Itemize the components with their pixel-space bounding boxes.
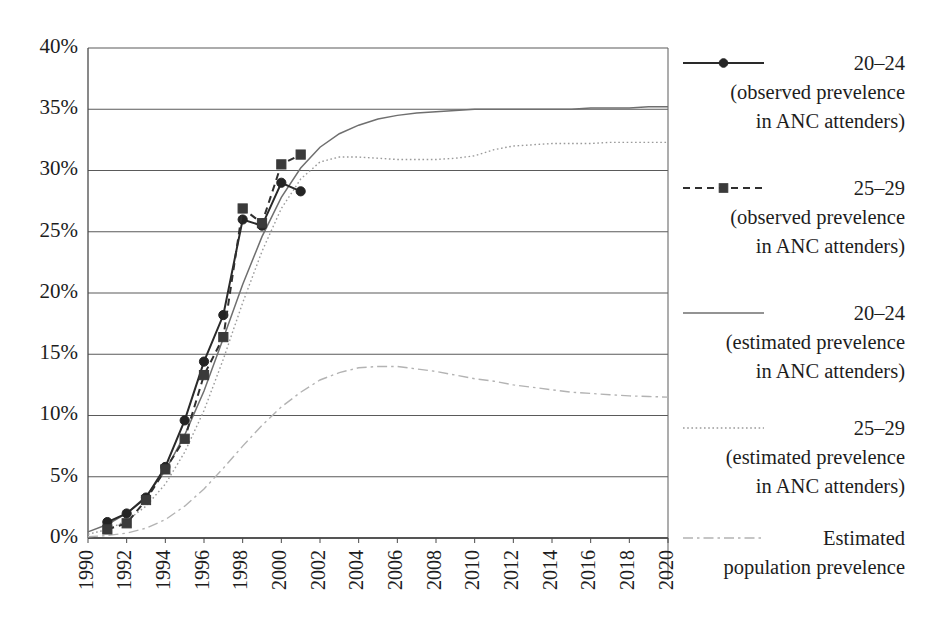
x-tick-label: 2012 <box>500 550 522 590</box>
data-point-marker <box>122 509 131 518</box>
legend-label-line2-0: (observed prevelence <box>730 81 905 104</box>
data-point-marker <box>219 333 228 342</box>
chart-figure: 0%5%10%15%20%25%30%35%40% 19901992199419… <box>0 0 925 631</box>
series-line-0 <box>107 183 300 522</box>
data-point-marker <box>122 519 131 528</box>
x-tick-label: 1994 <box>152 550 174 590</box>
x-tick-label: 2008 <box>423 550 445 590</box>
legend-label-line2-4: population prevelence <box>723 556 905 579</box>
data-point-marker <box>180 416 189 425</box>
data-point-marker <box>180 434 189 443</box>
x-tick-label: 2006 <box>384 550 406 590</box>
x-tick-label: 1996 <box>191 550 213 590</box>
legend-label-main-2: 20–24 <box>854 302 905 324</box>
y-tick-label: 5% <box>50 463 78 487</box>
data-point-marker <box>238 204 247 213</box>
data-series-layer <box>88 107 668 537</box>
legend-label-main-4: Estimated <box>823 527 905 549</box>
y-tick-label: 15% <box>40 340 79 364</box>
x-tick-label: 1990 <box>75 550 97 590</box>
legend-circle-marker <box>719 59 728 68</box>
data-point-marker <box>199 357 208 366</box>
x-tick-label: 2000 <box>268 550 290 590</box>
legend-label-main-0: 20–24 <box>854 52 905 74</box>
x-tick-label: 2010 <box>461 550 483 590</box>
y-tick-label: 0% <box>50 524 78 548</box>
legend-label-line2-3: (estimated prevelence <box>726 446 905 469</box>
data-point-marker <box>199 370 208 379</box>
legend-square-marker <box>719 184 728 193</box>
legend-label-main-3: 25–29 <box>854 417 905 439</box>
legend-label-line2-1: (observed prevelence <box>730 206 905 229</box>
data-point-marker <box>103 525 112 534</box>
y-tick-label: 40% <box>40 34 79 58</box>
data-point-marker <box>296 150 305 159</box>
x-tick-label: 2002 <box>307 550 329 590</box>
data-point-marker <box>141 495 150 504</box>
prevalence-line-chart: 0%5%10%15%20%25%30%35%40% 19901992199419… <box>0 0 925 631</box>
legend-label-main-1: 25–29 <box>854 177 905 199</box>
legend-label-line2-2: (estimated prevelence <box>726 331 905 354</box>
data-point-marker <box>277 178 286 187</box>
x-axis-ticks <box>88 538 668 543</box>
data-point-marker <box>296 187 305 196</box>
gridlines <box>88 48 668 580</box>
legend-label-line3-3: in ANC attenders) <box>756 475 905 498</box>
x-tick-label: 2004 <box>345 550 367 590</box>
series-line-3 <box>88 142 668 534</box>
y-tick-label: 10% <box>40 401 79 425</box>
x-axis-tick-labels: 1990199219941996199820002002200420062008… <box>75 550 677 590</box>
data-point-marker <box>238 215 247 224</box>
legend-label-line3-0: in ANC attenders) <box>756 110 905 133</box>
data-point-marker <box>277 160 286 169</box>
x-tick-label: 2016 <box>577 550 599 590</box>
x-tick-label: 2014 <box>539 550 561 590</box>
legend-label-line3-2: in ANC attenders) <box>756 360 905 383</box>
y-tick-label: 25% <box>40 218 79 242</box>
chart-legend: 20–24(observed prevelencein ANC attender… <box>683 52 905 579</box>
y-axis-tick-labels: 0%5%10%15%20%25%30%35%40% <box>40 34 79 548</box>
y-tick-label: 30% <box>40 156 79 180</box>
data-point-marker <box>257 219 266 228</box>
y-tick-label: 35% <box>40 95 79 119</box>
x-tick-label: 2020 <box>655 550 677 590</box>
y-tick-label: 20% <box>40 279 79 303</box>
x-tick-label: 1992 <box>113 550 135 590</box>
x-tick-label: 2018 <box>616 550 638 590</box>
x-tick-label: 1998 <box>229 550 251 590</box>
legend-label-line3-1: in ANC attenders) <box>756 235 905 258</box>
series-line-1 <box>107 155 300 530</box>
data-point-marker <box>161 465 170 474</box>
